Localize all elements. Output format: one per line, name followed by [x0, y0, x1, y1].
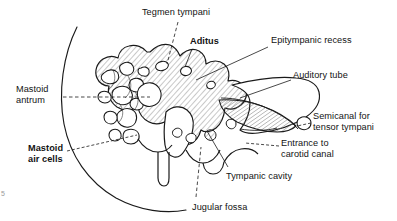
- label-mastoid-antrum-line1: Mastoid: [16, 84, 49, 95]
- label-tegmen-tympani-text: Tegmen tympani: [142, 7, 210, 17]
- label-entrance-carotid-canal: Entrance to carotid canal: [281, 138, 334, 160]
- label-jugular-fossa-text: Jugular fossa: [192, 202, 247, 212]
- leader-jugular-fossa: [196, 147, 201, 197]
- label-tympanic-cavity-text: Tympanic cavity: [226, 171, 292, 181]
- page-corner-mark: 5: [1, 190, 5, 197]
- label-tympanic-cavity: Tympanic cavity: [226, 171, 292, 182]
- label-tegmen-tympani: Tegmen tympani: [126, 7, 226, 18]
- label-jugular-fossa: Jugular fossa: [192, 202, 247, 213]
- leader-entrance-carotid-canal: [245, 143, 279, 146]
- label-aditus-text: Aditus: [190, 36, 219, 46]
- label-entrance-carotid-line2: carotid canal: [281, 149, 334, 160]
- label-auditory-tube-text: Auditory tube: [293, 70, 348, 80]
- label-semicanal-line2: tensor tympani: [313, 122, 374, 133]
- label-mastoid-air-cells: Mastoid air cells: [28, 143, 63, 165]
- anatomy-figure: Tegmen tympani Aditus Epitympanic recess…: [0, 0, 397, 221]
- label-aditus: Aditus: [190, 36, 219, 47]
- mastoid-antrum-cavity: [137, 83, 161, 107]
- label-epitympanic-recess: Epitympanic recess: [271, 35, 352, 46]
- label-mastoid-antrum: Mastoid antrum: [16, 84, 49, 106]
- label-semicanal-line1: Semicanal for: [313, 111, 374, 122]
- label-semicanal-tensor-tympani: Semicanal for tensor tympani: [313, 111, 374, 133]
- label-mastoid-air-cells-line1: Mastoid: [28, 143, 63, 154]
- label-mastoid-air-cells-line2: air cells: [28, 154, 63, 165]
- label-auditory-tube: Auditory tube: [293, 70, 348, 81]
- label-entrance-carotid-line1: Entrance to: [281, 138, 334, 149]
- label-epitympanic-recess-text: Epitympanic recess: [271, 35, 352, 45]
- label-mastoid-antrum-line2: antrum: [16, 95, 49, 106]
